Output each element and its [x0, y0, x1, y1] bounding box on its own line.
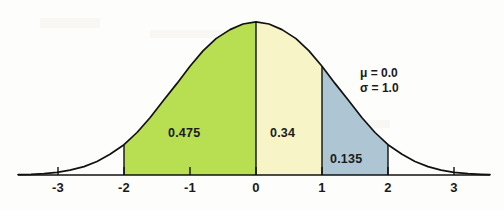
green-region-fill	[18, 22, 490, 175]
distribution-parameters: μ = 0.0 σ = 1.0	[360, 66, 399, 96]
blue-region-label: 0.135	[330, 152, 362, 166]
tick-label-neg1: -1	[175, 180, 205, 195]
tick-label-pos1: 1	[307, 180, 337, 195]
tick-label-pos3: 3	[439, 180, 469, 195]
tick-label-neg3: -3	[43, 180, 73, 195]
tick-label-pos2: 2	[373, 180, 403, 195]
tick-label-neg2: -2	[109, 180, 139, 195]
normal-distribution-figure: 0.475 0.34 0.135 μ = 0.0 σ = 1.0 -3 -2 -…	[0, 0, 504, 210]
yellow-region-label: 0.34	[270, 126, 295, 140]
mu-annotation: μ = 0.0	[360, 66, 399, 81]
shaded-areas-group	[18, 22, 490, 175]
green-region-label: 0.475	[168, 126, 200, 140]
tick-label-zero: 0	[241, 180, 271, 195]
x-axis-ticks	[58, 167, 454, 175]
distribution-plot	[0, 0, 504, 210]
sigma-annotation: σ = 1.0	[360, 81, 399, 96]
